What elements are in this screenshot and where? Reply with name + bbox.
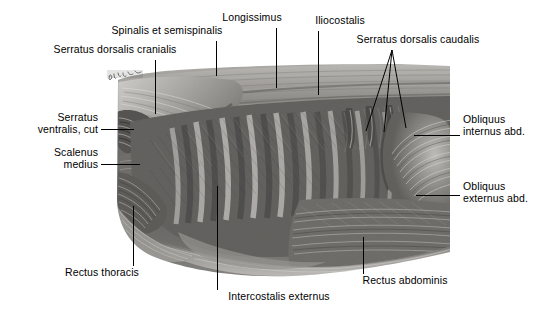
label-serratus-ventralis-cut: Serratus ventralis, cut xyxy=(0,112,98,135)
label-rectus-thoracis: Rectus thoracis xyxy=(42,267,162,279)
label-spinalis-et-semispinalis: Spinalis et semispinalis xyxy=(92,25,242,37)
label-serratus-dorsalis-cranialis: Serratus dorsalis cranialis xyxy=(15,44,215,56)
label-longissimus: Longissimus xyxy=(212,12,292,24)
figure-canvas: Serratus dorsalis cranialis Spinalis et … xyxy=(0,0,552,320)
label-obliquus-internus-abd: Obliquus internus abd. xyxy=(463,114,551,137)
label-scalenus-medius: Scalenus medius xyxy=(0,147,98,170)
label-iliocostalis: Iliocostalis xyxy=(300,15,380,27)
label-obliquus-externus-abd: Obliquus externus abd. xyxy=(463,181,551,204)
label-serratus-dorsalis-caudalis: Serratus dorsalis caudalis xyxy=(338,34,498,46)
label-intercostalis-externus: Intercostalis externus xyxy=(209,291,349,303)
label-rectus-abdominis: Rectus abdominis xyxy=(345,275,465,287)
